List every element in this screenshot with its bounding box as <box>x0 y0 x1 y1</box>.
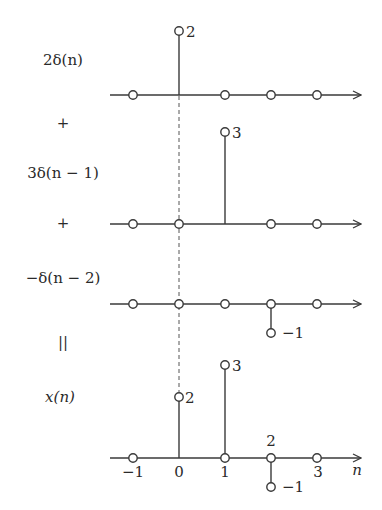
row-x-n: x(n) 2 3 −1 −1 0 1 2 3 n <box>45 357 362 496</box>
row4-impulse-n2 <box>267 483 275 491</box>
row-2delta-n: 2δ(n) 2 <box>43 23 361 99</box>
row4-sample-n1 <box>221 454 229 462</box>
row-label-x-n: x(n) <box>45 388 75 406</box>
row-label-neg-delta-n-2: −δ(n − 2) <box>26 269 101 287</box>
row3-impulse-n2 <box>267 329 275 337</box>
row4-value-n1: 3 <box>232 357 242 375</box>
row3-sample-n0 <box>175 300 183 308</box>
row1-impulse-n0 <box>175 27 183 35</box>
row2-impulse-n1 <box>221 128 229 136</box>
row4-value-n0: 2 <box>185 389 195 407</box>
row-neg-delta-n-minus-2: −δ(n − 2) −1 <box>26 269 361 342</box>
row3-sample-n1 <box>221 300 229 308</box>
row4-sample-n2 <box>267 454 275 462</box>
tick-label-n1: 1 <box>220 463 230 481</box>
row4-value-n2: −1 <box>282 478 304 496</box>
tick-label-n0: 0 <box>174 463 184 481</box>
axis-label-n: n <box>352 461 362 479</box>
row4-sample-nm1 <box>129 454 137 462</box>
tick-label-n2: 2 <box>266 432 276 450</box>
row2-sample-n0 <box>175 220 183 228</box>
row1-sample-nm1 <box>129 91 137 99</box>
row-label-3delta-n-1: 3δ(n − 1) <box>27 164 99 182</box>
row3-sample-n3 <box>313 300 321 308</box>
row2-impulse-value: 3 <box>232 124 242 142</box>
row1-sample-n1 <box>221 91 229 99</box>
plus-operator-2: + <box>57 214 70 232</box>
equals-operator: || <box>58 333 68 351</box>
tick-label-n3: 3 <box>313 463 323 481</box>
plus-operator-1: + <box>57 114 70 132</box>
row-label-2delta-n: 2δ(n) <box>43 51 83 69</box>
row3-sample-nm1 <box>129 300 137 308</box>
row2-sample-n3 <box>313 220 321 228</box>
row-3delta-n-minus-1: 3δ(n − 1) 3 <box>27 124 361 228</box>
row2-sample-n2 <box>267 220 275 228</box>
row2-sample-nm1 <box>129 220 137 228</box>
row4-impulse-n0 <box>175 393 183 401</box>
row1-sample-n3 <box>313 91 321 99</box>
row4-impulse-n1 <box>221 361 229 369</box>
row3-impulse-value: −1 <box>282 324 304 342</box>
row1-impulse-value: 2 <box>186 23 196 41</box>
row4-sample-n3 <box>313 454 321 462</box>
row3-sample-n2 <box>267 300 275 308</box>
tick-label-nm1: −1 <box>122 463 144 481</box>
impulse-decomposition-diagram: 2δ(n) 2 + 3δ(n − 1) 3 + −δ(n − 2) −1 | <box>0 0 382 510</box>
row1-sample-n2 <box>267 91 275 99</box>
